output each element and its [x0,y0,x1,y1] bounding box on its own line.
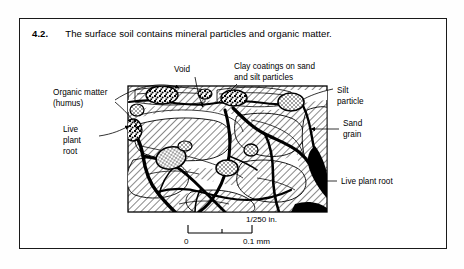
figure-number: 4.2. [32,28,48,39]
label-live-plant-root-left: Live plant root [63,125,129,156]
figure-caption: 4.2. The surface soil contains mineral p… [32,28,432,46]
live-plant-root-left-line2: plant [63,136,82,145]
label-live-plant-root-right: Live plant root [319,177,393,186]
live-plant-root-left-leader [99,126,129,136]
scale-start-label: 0 [184,237,189,246]
clay-coatings-label-line1: Clay coatings on sand [234,62,315,71]
scale-bar-line [188,225,252,233]
page-canvas: 4.2. The surface soil contains mineral p… [0,0,464,269]
live-plant-root-left-line3: root [63,147,78,156]
clay-coatings-label-line2: and silt particles [234,73,293,82]
soil-diagram: Organic matter (humus) Void Clay coating… [19,50,447,249]
live-plant-root-right-label: Live plant root [341,177,393,186]
sand-grain-label-line1: Sand [343,119,363,128]
scale-imperial-label: 1/250 in. [246,215,277,224]
live-plant-root-left-line1: Live [63,125,79,134]
sand-grain-label-line2: grain [343,130,362,139]
scale-end-label: 0.1 mm [243,237,270,246]
scale-bar: 1/250 in. 0 0.1 mm [184,215,277,246]
silt-particle-label-line1: Silt [337,86,349,95]
soil-section-box [124,86,327,212]
void-label: Void [174,65,190,74]
organic-matter-label-line2: (humus) [53,99,83,108]
figure-caption-text: The surface soil contains mineral partic… [65,28,332,39]
silt-particle-label-line2: particle [337,97,364,106]
organic-matter-label-line1: Organic matter [53,88,108,97]
